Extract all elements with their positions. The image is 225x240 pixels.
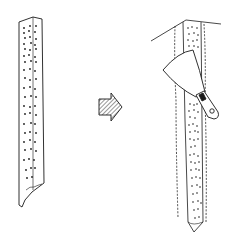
arrow-right-icon [99, 93, 122, 121]
strip-before [19, 17, 44, 207]
wallpaper-removal-illustration [0, 0, 225, 240]
